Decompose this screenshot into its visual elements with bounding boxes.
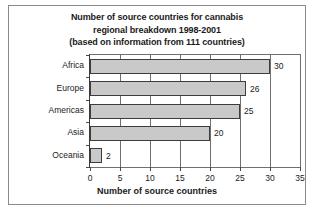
x-axis-tick bbox=[240, 167, 241, 171]
x-tick-label: 35 bbox=[295, 173, 304, 183]
category-axis-labels: AfricaEuropeAmericasAsiaOceania bbox=[9, 54, 84, 166]
category-label-oceania: Oceania bbox=[52, 150, 84, 160]
value-axis-line bbox=[89, 54, 90, 168]
chart-figure: Number of source countries for cannabis … bbox=[8, 5, 306, 205]
bar-row[interactable]: 20 bbox=[90, 126, 300, 141]
x-tick-label: 15 bbox=[175, 173, 184, 183]
x-axis-tick bbox=[90, 167, 91, 171]
x-axis-tick bbox=[120, 167, 121, 171]
chart-title: Number of source countries for cannabis … bbox=[9, 11, 305, 49]
x-axis-tick bbox=[270, 167, 271, 171]
x-axis-tick bbox=[300, 167, 301, 171]
bar-row[interactable]: 25 bbox=[90, 104, 300, 119]
category-label-americas: Americas bbox=[49, 105, 84, 115]
category-label-asia: Asia bbox=[67, 127, 84, 137]
bar-row[interactable]: 30 bbox=[90, 59, 300, 74]
category-label-europe: Europe bbox=[57, 83, 84, 93]
chart-title-line-1: Number of source countries for cannabis bbox=[9, 11, 305, 24]
bar-europe[interactable] bbox=[90, 81, 246, 96]
x-tick-label: 0 bbox=[88, 173, 93, 183]
bar-row[interactable]: 2 bbox=[90, 148, 300, 163]
plot-area: 05101520253035302625202 bbox=[89, 54, 301, 168]
bar-africa[interactable] bbox=[90, 59, 270, 74]
chart-title-line-3: (based on information from 111 countries… bbox=[9, 36, 305, 49]
bar-asia[interactable] bbox=[90, 126, 210, 141]
bar-value-label: 20 bbox=[210, 128, 223, 138]
bar-value-label: 2 bbox=[102, 151, 111, 161]
bar-value-label: 30 bbox=[270, 61, 283, 71]
x-axis-tick bbox=[180, 167, 181, 171]
x-axis-tick bbox=[150, 167, 151, 171]
x-tick-label: 25 bbox=[235, 173, 244, 183]
bar-value-label: 26 bbox=[246, 84, 259, 94]
chart-title-line-2: regional breakdown 1998-2001 bbox=[9, 24, 305, 37]
x-tick-label: 20 bbox=[205, 173, 214, 183]
bar-americas[interactable] bbox=[90, 104, 240, 119]
x-tick-label: 30 bbox=[265, 173, 274, 183]
bar-row[interactable]: 26 bbox=[90, 81, 300, 96]
bar-value-label: 25 bbox=[240, 106, 253, 116]
category-label-africa: Africa bbox=[62, 60, 84, 70]
bar-oceania[interactable] bbox=[90, 148, 102, 163]
x-axis-tick bbox=[210, 167, 211, 171]
x-tick-label: 5 bbox=[118, 173, 123, 183]
x-axis-title: Number of source countries bbox=[9, 186, 305, 196]
x-tick-label: 10 bbox=[145, 173, 154, 183]
